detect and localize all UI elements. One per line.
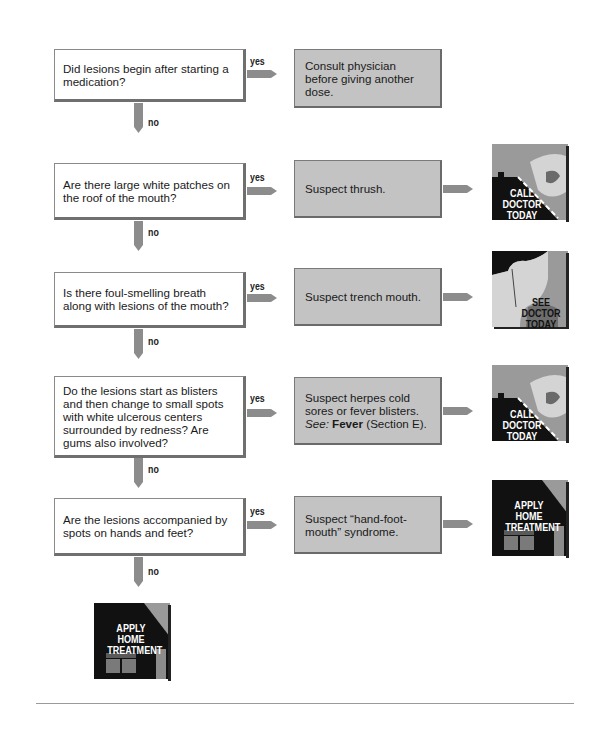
- question-text: Is there foul-smelling breath along with…: [63, 286, 235, 312]
- question-box-4: Do the lesions start as blisters and the…: [54, 376, 246, 458]
- footer-divider: [36, 703, 574, 704]
- outcome-label: SEEDOCTORTODAY: [521, 297, 562, 330]
- question-box-5: Are the lesions accompanied by spots on …: [54, 498, 246, 556]
- no-arrow-icon: [134, 221, 143, 251]
- question-box-3: Is there foul-smelling breath along with…: [54, 272, 246, 328]
- no-label: no: [148, 116, 159, 128]
- apply-home-treatment-icon: APPLYHOMETREATMENT: [490, 478, 570, 558]
- see-doctor-today-icon: SEEDOCTORTODAY: [490, 249, 570, 329]
- no-arrow-icon: [134, 329, 143, 359]
- question-box-2: Are there large white patches on the roo…: [54, 163, 246, 220]
- answer-box-2: Suspect thrush.: [294, 160, 442, 218]
- call-doctor-today-icon: CALLDOCTORTODAY: [490, 363, 570, 443]
- answer-box-5: Suspect “hand-foot-mouth” syndrome.: [294, 496, 442, 554]
- yes-label: yes: [250, 280, 265, 292]
- question-box-1: Did lesions begin after starting a medic…: [54, 49, 246, 102]
- yes-arrow-icon: [247, 70, 277, 78]
- outcome-arrow-icon: [443, 293, 473, 301]
- answer-text: Suspect thrush.: [305, 182, 386, 195]
- yes-label: yes: [250, 171, 265, 183]
- outcome-label: CALLDOCTORTODAY: [499, 409, 545, 442]
- outcome-arrow-icon: [443, 407, 473, 415]
- outcome-arrow-icon: [443, 520, 473, 528]
- answer-text: Suspect herpes cold sores or fever blist…: [305, 391, 430, 430]
- answer-text: Consult physician before giving another …: [305, 59, 430, 98]
- question-text: Are the lesions accompanied by spots on …: [63, 513, 235, 539]
- call-doctor-today-icon: CALLDOCTORTODAY: [490, 142, 570, 222]
- answer-box-4: Suspect herpes cold sores or fever blist…: [294, 377, 442, 445]
- outcome-label: CALLDOCTORTODAY: [499, 188, 545, 221]
- outcome-label: APPLYHOMETREATMENT: [505, 500, 553, 533]
- no-label: no: [148, 565, 159, 577]
- yes-arrow-icon: [247, 409, 277, 417]
- no-label: no: [148, 463, 159, 475]
- answer-text: Suspect trench mouth.: [305, 290, 421, 303]
- yes-label: yes: [250, 392, 265, 404]
- answer-box-1: Consult physician before giving another …: [294, 49, 442, 108]
- apply-home-treatment-icon: APPLYHOMETREATMENT: [92, 601, 172, 681]
- answer-box-3: Suspect trench mouth.: [294, 268, 442, 326]
- question-text: Do the lesions start as blisters and the…: [63, 384, 235, 449]
- answer-text: Suspect “hand-foot-mouth” syndrome.: [305, 512, 430, 538]
- yes-arrow-icon: [247, 521, 277, 529]
- yes-label: yes: [250, 55, 265, 67]
- question-text: Are there large white patches on the roo…: [63, 178, 235, 204]
- no-label: no: [148, 335, 159, 347]
- no-label: no: [148, 226, 159, 238]
- yes-arrow-icon: [247, 187, 277, 195]
- question-text: Did lesions begin after starting a medic…: [63, 62, 235, 88]
- no-arrow-icon: [134, 103, 143, 133]
- no-arrow-icon: [134, 557, 143, 587]
- outcome-arrow-icon: [443, 185, 473, 193]
- no-arrow-icon: [134, 458, 143, 488]
- outcome-label: APPLYHOMETREATMENT: [107, 623, 155, 656]
- yes-label: yes: [250, 505, 265, 517]
- yes-arrow-icon: [247, 294, 277, 302]
